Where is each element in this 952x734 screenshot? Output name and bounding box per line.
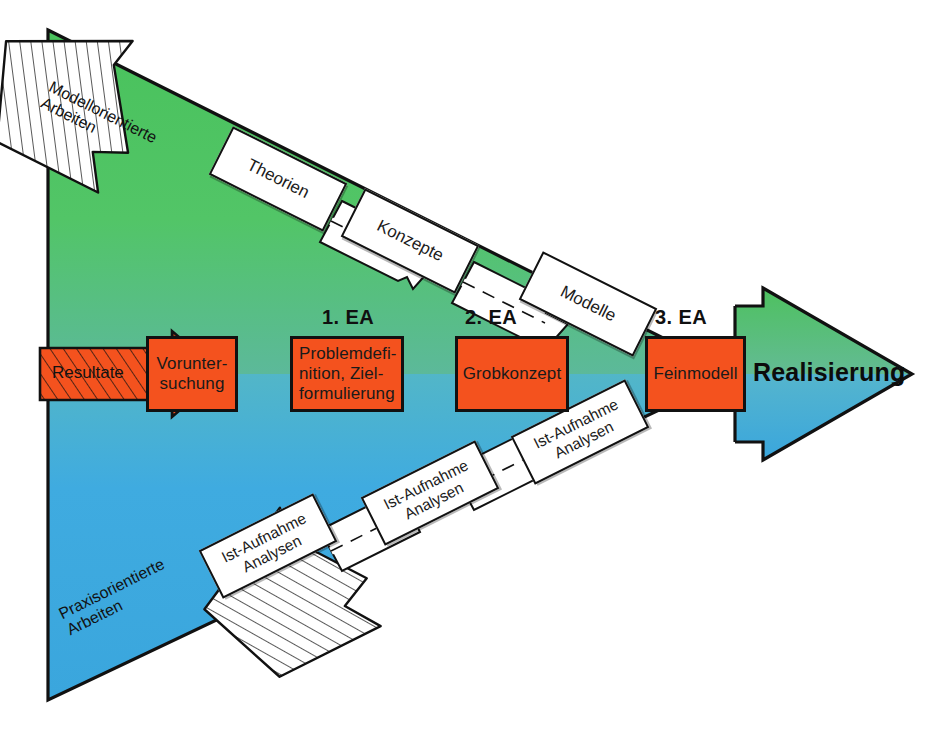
process-box-grobkonzept-label: Grobkonzept bbox=[463, 364, 561, 384]
process-box-problemdefinition-label: Problemdefi- nition, Ziel- formulierung bbox=[299, 344, 397, 404]
process-box-feinmodell[interactable]: Feinmodell bbox=[645, 336, 746, 412]
process-box-feinmodell-label: Feinmodell bbox=[653, 364, 737, 384]
realisierung-label: Realisierung bbox=[753, 358, 905, 387]
note-modelle-label: Modelle bbox=[557, 282, 619, 327]
process-box-voruntersuchung-label: Vorunter- suchung bbox=[157, 354, 228, 394]
process-box-voruntersuchung[interactable]: Vorunter- suchung bbox=[146, 336, 238, 412]
note-theorien-label: Theorien bbox=[243, 155, 312, 203]
stage-label-2-ea: 2. EA bbox=[465, 306, 517, 329]
process-box-grobkonzept[interactable]: Grobkonzept bbox=[455, 336, 569, 412]
stage-label-3-ea: 3. EA bbox=[655, 306, 707, 329]
diagram-canvas: Modellorientierte Arbeiten Resultate Pra… bbox=[0, 0, 952, 734]
process-box-problemdefinition[interactable]: Problemdefi- nition, Ziel- formulierung bbox=[290, 336, 404, 412]
note-konzepte-label: Konzepte bbox=[373, 216, 446, 266]
stage-label-1-ea: 1. EA bbox=[322, 306, 374, 329]
